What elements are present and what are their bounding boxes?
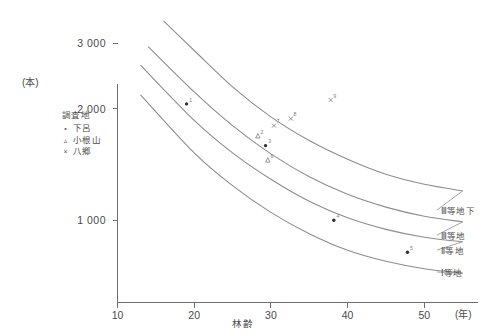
x-tick-label: 40 [331, 309, 365, 321]
axis-group [118, 84, 479, 303]
curve-label-2: Ⅲ等地 [441, 229, 466, 241]
legend-item-label: 下呂 [73, 123, 92, 135]
data-point-triangle [256, 134, 260, 138]
data-point-dot [406, 251, 409, 254]
data-point-tag: 2 [260, 129, 263, 135]
x-tick-group [118, 303, 425, 308]
legend-item: ×八郷 [62, 146, 101, 158]
data-point-dot [185, 102, 188, 105]
curve-label-4: Ⅰ等地 [441, 266, 462, 278]
legend-rows: •下呂▵小根山×八郷 [62, 123, 101, 158]
x-axis-unit: (年) [455, 306, 472, 321]
legend-marker-icon: • [62, 123, 69, 135]
y-tick-label: 1 000 [48, 214, 106, 226]
legend-item: ▵小根山 [62, 135, 101, 147]
x-tick-label: 50 [407, 309, 441, 321]
data-point-tag: 7 [277, 118, 280, 124]
legend-item-label: 八郷 [73, 146, 92, 158]
legend-item-label: 小根山 [73, 135, 101, 147]
curve-2 [148, 47, 462, 222]
legend-title: 調査地 [62, 110, 101, 122]
chart-figure: 134526789 (本) (年) 林齢 3 0002 0001 000 102… [0, 0, 490, 336]
data-point-tag: 6 [270, 153, 273, 159]
y-tick-group [113, 43, 118, 220]
data-point-tag: 9 [333, 93, 336, 99]
data-point-dot [332, 219, 335, 222]
curve-4 [141, 95, 463, 273]
legend-marker-icon: ▵ [62, 135, 69, 147]
data-point-tag: 8 [293, 111, 296, 117]
data-point-tag: 4 [336, 213, 339, 219]
data-point-dot [264, 144, 267, 147]
data-point-tag: 1 [189, 97, 192, 103]
curve-label-1: Ⅲ等地下 [441, 204, 475, 216]
legend: 調査地 •下呂▵小根山×八郷 [62, 110, 101, 158]
data-point-tag: 3 [268, 138, 271, 144]
curve-group [141, 21, 463, 273]
data-point-tag: 5 [410, 245, 413, 251]
curve-3 [141, 65, 463, 242]
x-tick-label: 30 [254, 309, 288, 321]
curve-label-3: Ⅱ等地 [441, 244, 464, 256]
y-axis-unit: (本) [22, 74, 39, 89]
legend-item: •下呂 [62, 123, 101, 135]
x-tick-label: 10 [101, 309, 135, 321]
data-point-cross [329, 98, 333, 102]
data-point-cross [289, 117, 293, 121]
legend-marker-icon: × [62, 146, 69, 158]
data-point-cross [272, 124, 276, 128]
data-point-triangle [266, 158, 270, 162]
data-point-group: 134526789 [185, 93, 413, 254]
y-tick-label: 3 000 [48, 37, 106, 49]
x-axis-title: 林齢 [232, 316, 254, 330]
x-tick-label: 20 [177, 309, 211, 321]
plot-area: 134526789 [0, 0, 490, 336]
